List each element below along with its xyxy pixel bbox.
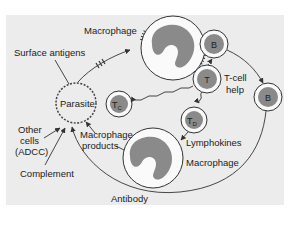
label-antibody: Antibody <box>111 193 148 204</box>
label-macrophage-bottom: Macrophage <box>186 157 239 168</box>
label-tcell-help: help <box>226 84 244 95</box>
label-other-cells: Other <box>18 124 42 135</box>
label-macrophage-products: products <box>82 140 118 151</box>
immune-response-diagram: B T B TC TD <box>0 0 299 226</box>
b-cell-label: B <box>211 40 217 50</box>
label-parasite: Parasite <box>60 98 95 109</box>
t-helper-cell: T <box>193 65 221 93</box>
b-cell-right: B <box>254 83 282 111</box>
label-lymphokines: Lymphokines <box>186 137 242 148</box>
label-other-cells: cells <box>20 135 39 146</box>
b-cell-label: B <box>265 93 271 103</box>
label-complement: Complement <box>20 168 74 179</box>
label-macrophage-top: Macrophage <box>84 25 137 36</box>
cytotoxic-t-cell: TC <box>106 91 132 117</box>
delayed-hypersensitivity-t-cell: TD <box>181 107 207 133</box>
label-macrophage-products: Macrophage <box>80 129 133 140</box>
b-cell-top: B <box>200 30 228 58</box>
label-other-cells-adcc: (ADCC) <box>15 146 48 157</box>
label-tcell-help: T-cell <box>224 72 247 83</box>
t-cell-label: T <box>204 75 210 85</box>
label-surface-antigens: Surface antigens <box>14 47 85 58</box>
